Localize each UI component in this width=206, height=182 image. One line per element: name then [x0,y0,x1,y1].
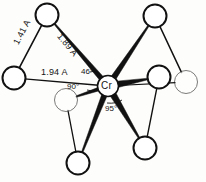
molecular-structure-figure: 1.41 A 1.89 A 1.94 A 46° 90° 95° Cr [0,0,206,182]
atom-layer [3,4,198,175]
bond-wedge [81,94,107,154]
bond-wedge [110,92,140,139]
atom-A5 [175,71,198,94]
bond-line [68,110,76,152]
atom-A3 [3,67,26,90]
atom-A7 [67,152,90,175]
bond-wedge [111,24,150,79]
bond-wedge [117,78,149,87]
bond-line [147,87,157,137]
bond-angle-label-95: 95° [105,105,117,113]
central-atom-label: Cr [101,81,112,91]
atom-A8 [134,137,157,160]
structure-canvas [0,0,206,182]
atom-A2 [144,5,167,28]
bond-line [24,79,98,85]
bond-length-label-194: 1.94 A [41,68,68,77]
atom-A6 [55,89,78,112]
atom-A1 [36,4,59,27]
bond-angle-label-46: 46° [81,68,93,76]
atom-A4 [148,66,171,89]
bond-angle-label-90: 90° [67,83,79,91]
